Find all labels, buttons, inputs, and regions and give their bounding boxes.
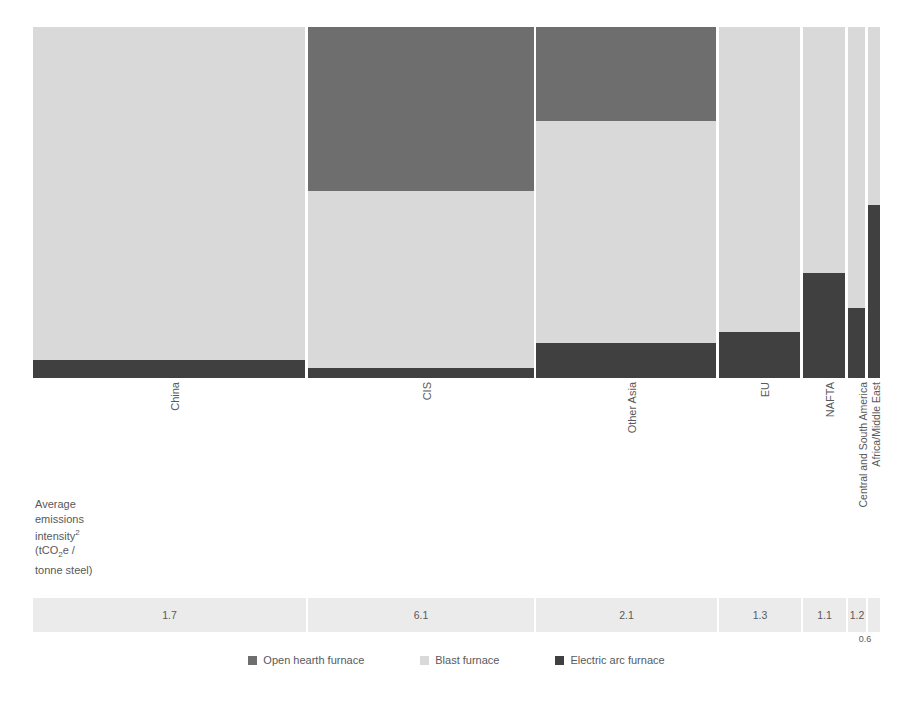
segment-africa-middle-east-electric-arc-furnace — [868, 205, 880, 378]
x-label-nafta: NAFTA — [824, 382, 836, 417]
segment-central-and-south-america-electric-arc-furnace — [848, 308, 865, 378]
axis-note-line-5: tonne steel) — [35, 563, 155, 578]
legend-label-blast-furnace: Blast furnace — [435, 654, 499, 666]
segment-china-blast-furnace — [33, 27, 305, 360]
axis-note-line-4: (tCO2e / — [35, 543, 155, 563]
x-label-central-and-south-america: Central and South America — [857, 382, 869, 508]
axis-note-line-1: Average — [35, 497, 155, 512]
segment-eu-electric-arc-furnace — [719, 332, 800, 378]
x-label-other-asia: Other Asia — [626, 382, 638, 433]
x-label-cis: CIS — [421, 382, 433, 400]
legend-swatch-icon-open-hearth-furnace — [248, 656, 257, 665]
segment-other-asia-blast-furnace — [536, 121, 716, 343]
legend-label-electric-arc-furnace: Electric arc furnace — [570, 654, 664, 666]
legend-swatch-icon-electric-arc-furnace — [555, 656, 564, 665]
legend-item-electric-arc-furnace: Electric arc furnace — [555, 654, 664, 666]
segment-other-asia-open-hearth-furnace — [536, 27, 716, 121]
segment-central-and-south-america-blast-furnace — [848, 27, 865, 308]
x-label-china: China — [169, 382, 181, 411]
axis-note-line-4-a: (tCO — [35, 544, 58, 556]
segment-other-asia-electric-arc-furnace — [536, 343, 716, 378]
value-cell-other-asia: 2.1 — [536, 598, 719, 632]
value-cell-eu: 1.3 — [719, 598, 803, 632]
legend-swatch-icon-blast-furnace — [420, 656, 429, 665]
column-china — [33, 27, 305, 378]
column-africa-middle-east — [868, 27, 880, 378]
axis-note-line-2: emissions — [35, 512, 155, 527]
column-nafta — [803, 27, 845, 378]
value-cell-africa-middle-east — [868, 598, 880, 632]
segment-china-electric-arc-furnace — [33, 360, 305, 378]
legend-item-blast-furnace: Blast furnace — [420, 654, 499, 666]
secondary-axis-note: Average emissions intensity2 (tCO2e / to… — [35, 497, 155, 577]
column-cis — [308, 27, 534, 378]
marimekko-plot-area — [33, 27, 880, 378]
value-cell-china: 1.7 — [33, 598, 308, 632]
axis-note-line-3-text: intensity — [35, 530, 75, 542]
segment-cis-electric-arc-furnace — [308, 368, 534, 378]
value-callout-africa-middle-east: 0.6 — [848, 634, 882, 644]
segment-cis-blast-furnace — [308, 191, 534, 368]
axis-note-line-4-b: e / — [63, 544, 75, 556]
column-other-asia — [536, 27, 716, 378]
x-label-eu: EU — [759, 382, 771, 397]
segment-africa-middle-east-blast-furnace — [868, 27, 880, 205]
axis-note-superscript: 2 — [75, 528, 79, 537]
segment-nafta-electric-arc-furnace — [803, 273, 845, 378]
segment-eu-blast-furnace — [719, 27, 800, 332]
x-axis-labels: China CIS Other Asia EU NAFTA Central an… — [33, 382, 880, 494]
chart-root: China CIS Other Asia EU NAFTA Central an… — [0, 0, 912, 701]
column-central-and-south-america — [848, 27, 865, 378]
x-label-africa-middle-east: Africa/Middle East — [870, 382, 882, 467]
value-cell-central-and-south-america: 1.2 — [848, 598, 868, 632]
segment-nafta-blast-furnace — [803, 27, 845, 273]
emissions-intensity-value-strip: 1.7 6.1 2.1 1.3 1.1 1.2 0.6 — [33, 598, 880, 632]
legend-label-open-hearth-furnace: Open hearth furnace — [263, 654, 364, 666]
axis-note-line-3: intensity2 — [35, 526, 155, 543]
value-cell-cis: 6.1 — [308, 598, 536, 632]
segment-cis-open-hearth-furnace — [308, 27, 534, 191]
value-cell-nafta: 1.1 — [803, 598, 848, 632]
chart-legend: Open hearth furnace Blast furnace Electr… — [33, 650, 880, 670]
column-eu — [719, 27, 800, 378]
legend-item-open-hearth-furnace: Open hearth furnace — [248, 654, 364, 666]
